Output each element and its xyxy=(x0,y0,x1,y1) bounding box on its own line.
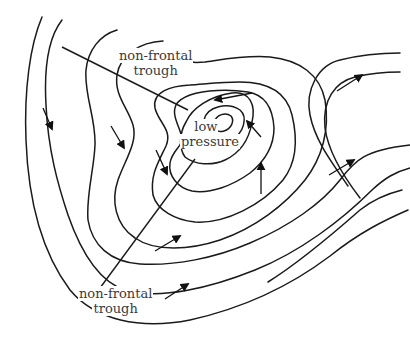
low-pressure-label-line2: pressure xyxy=(180,134,240,149)
wind-arrow-7 xyxy=(155,236,180,251)
isobar-right-2 xyxy=(325,72,400,198)
trough-top-label-line2: trough xyxy=(132,63,178,78)
trough-bottom-label-line1: non-frontal xyxy=(78,286,153,301)
trough-line-bottom xyxy=(100,159,195,288)
isobar-left xyxy=(26,17,408,324)
trough-bottom-label: non-frontal trough xyxy=(78,286,153,316)
trough-top-label-line1: non-frontal xyxy=(118,48,193,63)
isobar-map xyxy=(0,0,410,338)
wind-arrow-2 xyxy=(111,126,124,148)
trough-bottom-label-line2: trough xyxy=(92,301,138,316)
weather-diagram: non-frontal trough low pressure non-fron… xyxy=(0,0,410,338)
trough-top-label: non-frontal trough xyxy=(118,48,193,78)
isobar-8 xyxy=(46,20,410,294)
low-pressure-label-line1: low xyxy=(193,119,218,134)
isobar-right-3 xyxy=(268,190,402,282)
low-pressure-label: low pressure xyxy=(180,119,240,149)
